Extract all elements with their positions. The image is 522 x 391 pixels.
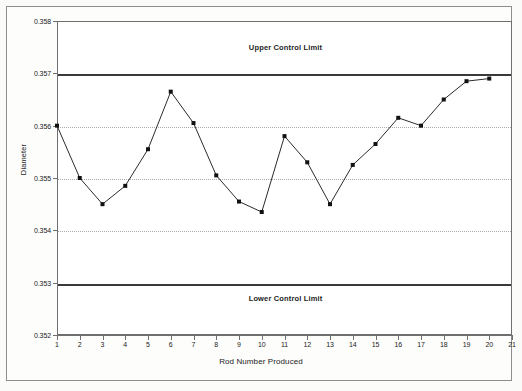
y-tick-label-0.352: 0.352 <box>17 332 51 339</box>
upper-control-limit-line <box>58 74 511 76</box>
x-tick-7 <box>194 335 195 340</box>
x-tick-4 <box>125 335 126 340</box>
y-tick-0.355 <box>53 178 57 179</box>
y-tick-0.354 <box>53 230 57 231</box>
y-tick-0.358 <box>53 21 57 22</box>
x-tick-3 <box>103 335 104 340</box>
x-tick-19 <box>467 335 468 340</box>
x-tick-label-8: 8 <box>214 341 218 348</box>
x-tick-label-14: 14 <box>349 341 357 348</box>
y-tick-label-0.356: 0.356 <box>17 122 51 129</box>
x-tick-label-21: 21 <box>508 341 516 348</box>
x-tick-label-3: 3 <box>101 341 105 348</box>
x-tick-12 <box>307 335 308 340</box>
gridline-0.355 <box>58 179 511 180</box>
y-tick-0.356 <box>53 126 57 127</box>
y-tick-label-0.358: 0.358 <box>17 18 51 25</box>
x-tick-label-13: 13 <box>326 341 334 348</box>
x-tick-label-19: 19 <box>463 341 471 348</box>
annotation-lower-control-limit: Lower Control Limit <box>249 294 323 303</box>
x-tick-16 <box>398 335 399 340</box>
x-tick-label-1: 1 <box>55 341 59 348</box>
x-tick-label-4: 4 <box>123 341 127 348</box>
y-axis-title: Diameter <box>19 130 28 190</box>
x-tick-5 <box>148 335 149 340</box>
x-tick-6 <box>171 335 172 340</box>
x-tick-18 <box>444 335 445 340</box>
x-tick-9 <box>239 335 240 340</box>
x-tick-label-6: 6 <box>169 341 173 348</box>
x-tick-11 <box>285 335 286 340</box>
x-tick-label-5: 5 <box>146 341 150 348</box>
x-tick-label-18: 18 <box>440 341 448 348</box>
x-tick-17 <box>421 335 422 340</box>
x-tick-label-9: 9 <box>237 341 241 348</box>
x-tick-label-10: 10 <box>258 341 266 348</box>
x-tick-2 <box>80 335 81 340</box>
x-tick-13 <box>330 335 331 340</box>
y-tick-label-0.357: 0.357 <box>17 70 51 77</box>
x-tick-14 <box>353 335 354 340</box>
x-tick-21 <box>512 335 513 340</box>
gridline-0.354 <box>58 231 511 232</box>
x-tick-label-16: 16 <box>394 341 402 348</box>
x-tick-label-20: 20 <box>485 341 493 348</box>
x-tick-1 <box>57 335 58 340</box>
chart-page: Upper Control LimitLower Control Limit 0… <box>0 0 522 391</box>
x-tick-10 <box>262 335 263 340</box>
x-axis-title: Rod Number Produced <box>0 357 522 366</box>
x-tick-label-15: 15 <box>372 341 380 348</box>
x-tick-label-11: 11 <box>281 341 288 348</box>
plot-area: Upper Control LimitLower Control Limit <box>57 21 512 335</box>
y-tick-label-0.353: 0.353 <box>17 279 51 286</box>
x-tick-label-2: 2 <box>78 341 82 348</box>
y-axis-line <box>57 21 58 336</box>
y-tick-label-0.354: 0.354 <box>17 227 51 234</box>
x-tick-label-12: 12 <box>303 341 311 348</box>
x-tick-8 <box>216 335 217 340</box>
y-tick-0.357 <box>53 73 57 74</box>
lower-control-limit-line <box>58 284 511 286</box>
x-tick-20 <box>489 335 490 340</box>
x-tick-15 <box>376 335 377 340</box>
y-tick-0.353 <box>53 283 57 284</box>
x-tick-label-7: 7 <box>192 341 196 348</box>
gridline-0.356 <box>58 127 511 128</box>
annotation-upper-control-limit: Upper Control Limit <box>249 43 322 52</box>
x-tick-label-17: 17 <box>417 341 425 348</box>
